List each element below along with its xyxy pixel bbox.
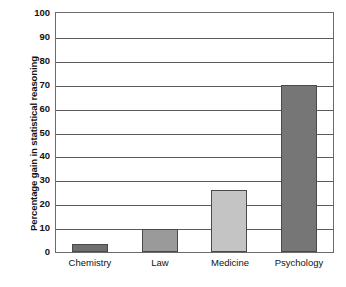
x-axis-tick-label: Law <box>125 256 195 269</box>
y-axis-tick-label: 10 <box>9 223 55 233</box>
y-axis-tick-label: 70 <box>9 80 55 90</box>
gridline <box>56 134 333 135</box>
plot-area <box>55 12 334 253</box>
gridline <box>56 181 333 182</box>
y-axis-tick-label: 40 <box>9 151 55 161</box>
y-axis-tick-label: 0 <box>9 247 55 257</box>
gridline <box>56 86 333 87</box>
x-axis-tick-label: Chemistry <box>55 256 125 269</box>
gridline <box>56 110 333 111</box>
y-axis-tick-label: 20 <box>9 199 55 209</box>
y-axis-tick-labels: 1009080706050403020100 <box>0 12 55 253</box>
gridline <box>56 205 333 206</box>
x-axis-tick-label: Psychology <box>264 256 334 269</box>
y-axis-tick-label: 30 <box>9 175 55 185</box>
y-axis-tick-label: 80 <box>9 56 55 66</box>
x-axis-tick-labels: ChemistryLawMedicinePsychology <box>55 256 334 272</box>
y-axis-tick-label: 60 <box>9 104 55 114</box>
y-axis-tick-label: 100 <box>9 8 55 18</box>
y-axis-tick-label: 50 <box>9 128 55 138</box>
gridline <box>56 157 333 158</box>
gridline <box>56 229 333 230</box>
bar-chart: Percentage gain in statistical reasoning… <box>0 0 346 287</box>
y-axis-tick-label: 90 <box>9 32 55 42</box>
gridline <box>56 62 333 63</box>
x-axis-tick-label: Medicine <box>195 256 265 269</box>
gridline <box>56 38 333 39</box>
